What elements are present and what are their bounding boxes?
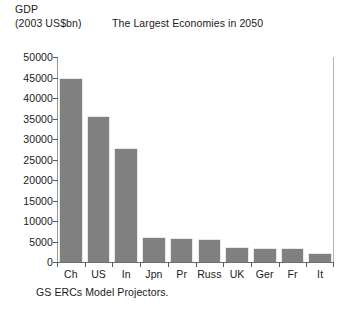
- y-tick-label: 15000: [23, 196, 53, 206]
- y-tick-label: 45000: [23, 73, 53, 83]
- y-tick-mark: [53, 139, 58, 140]
- bar: [281, 248, 305, 262]
- x-tick-mark: [251, 262, 252, 267]
- y-tick-mark: [53, 180, 58, 181]
- x-tick-label: In: [112, 269, 140, 280]
- x-tick-label: UK: [223, 269, 251, 280]
- x-tick-mark: [279, 262, 280, 267]
- bar: [87, 116, 111, 262]
- bar: [308, 253, 332, 262]
- x-tick-mark: [306, 262, 307, 267]
- x-tick-mark: [333, 262, 334, 267]
- x-tick-mark: [85, 262, 86, 267]
- y-tick-label: 0: [47, 257, 53, 267]
- bar: [142, 237, 166, 262]
- y-tick-label: 25000: [23, 155, 53, 165]
- y-tick-mark: [53, 119, 58, 120]
- x-tick-mark: [168, 262, 169, 267]
- x-tick-label: US: [85, 269, 113, 280]
- bar: [253, 248, 277, 262]
- x-tick-label: Russ: [196, 269, 224, 280]
- x-tick-label: Jpn: [140, 269, 168, 280]
- y-axis-label-line2: (2003 US$bn): [15, 17, 82, 30]
- y-tick-mark: [53, 98, 58, 99]
- y-tick-mark: [53, 242, 58, 243]
- x-tick-mark: [196, 262, 197, 267]
- y-tick-label: 30000: [23, 134, 53, 144]
- plot-right-border: [333, 57, 334, 263]
- x-tick-mark: [112, 262, 113, 267]
- x-tick-label: Fr: [279, 269, 307, 280]
- x-tick-mark: [140, 262, 141, 267]
- x-tick-mark: [57, 262, 58, 267]
- x-tick-label: Ch: [57, 269, 85, 280]
- bar: [59, 78, 83, 263]
- y-tick-label: 10000: [23, 216, 53, 226]
- bar: [198, 239, 222, 262]
- y-tick-mark: [53, 221, 58, 222]
- plot-area: [57, 57, 334, 263]
- y-tick-label: 5000: [29, 237, 53, 247]
- x-tick-label: It: [306, 269, 334, 280]
- bar-chart-figure: GDP (2003 US$bn) The Largest Economies i…: [0, 0, 348, 317]
- y-tick-mark: [53, 78, 58, 79]
- y-tick-mark: [53, 57, 58, 58]
- x-tick-mark: [223, 262, 224, 267]
- y-tick-label: 40000: [23, 93, 53, 103]
- x-tick-label: Pr: [168, 269, 196, 280]
- y-tick-mark: [53, 201, 58, 202]
- y-tick-label: 35000: [23, 114, 53, 124]
- y-tick-label: 20000: [23, 175, 53, 185]
- chart-caption: GS ERCs Model Projectors.: [36, 286, 169, 298]
- y-tick-mark: [53, 160, 58, 161]
- y-tick-label: 50000: [23, 52, 53, 62]
- bar: [114, 148, 138, 262]
- x-tick-label: Ger: [251, 269, 279, 280]
- bar: [170, 238, 194, 262]
- bar: [225, 247, 249, 262]
- chart-title: The Largest Economies in 2050: [112, 17, 263, 30]
- y-axis-label-line1: GDP: [15, 3, 38, 16]
